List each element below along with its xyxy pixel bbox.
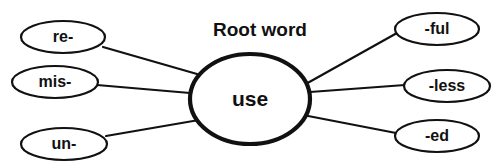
- node-ful[interactable]: -ful: [395, 13, 479, 45]
- connector-line-un: [106, 120, 199, 136]
- node-mis[interactable]: mis-: [12, 66, 98, 98]
- connector-line-re: [103, 47, 197, 74]
- node-re[interactable]: re-: [21, 21, 105, 53]
- prefix-label-un: un-: [52, 135, 77, 152]
- root-word-label: use: [232, 87, 268, 110]
- prefix-label-re: re-: [53, 28, 73, 45]
- suffix-label-ful: -ful: [425, 20, 450, 37]
- diagram-title: Root word: [213, 19, 307, 40]
- prefix-label-mis: mis-: [39, 73, 72, 90]
- node-less[interactable]: -less: [404, 70, 490, 102]
- connector-line-ed: [303, 115, 396, 133]
- node-ed[interactable]: -ed: [395, 120, 479, 152]
- connector-line-mis: [97, 85, 190, 93]
- connector-line-less: [310, 85, 405, 92]
- suffix-label-less: -less: [429, 77, 466, 94]
- suffix-label-ed: -ed: [425, 127, 449, 144]
- node-root[interactable]: use: [190, 54, 310, 144]
- node-un[interactable]: un-: [21, 128, 107, 160]
- word-web-diagram: re- mis- un- -ful -less -ed use Root wor…: [0, 0, 500, 168]
- connector-line-ful: [304, 33, 397, 85]
- diagram-svg: re- mis- un- -ful -less -ed use Root wor…: [0, 0, 500, 168]
